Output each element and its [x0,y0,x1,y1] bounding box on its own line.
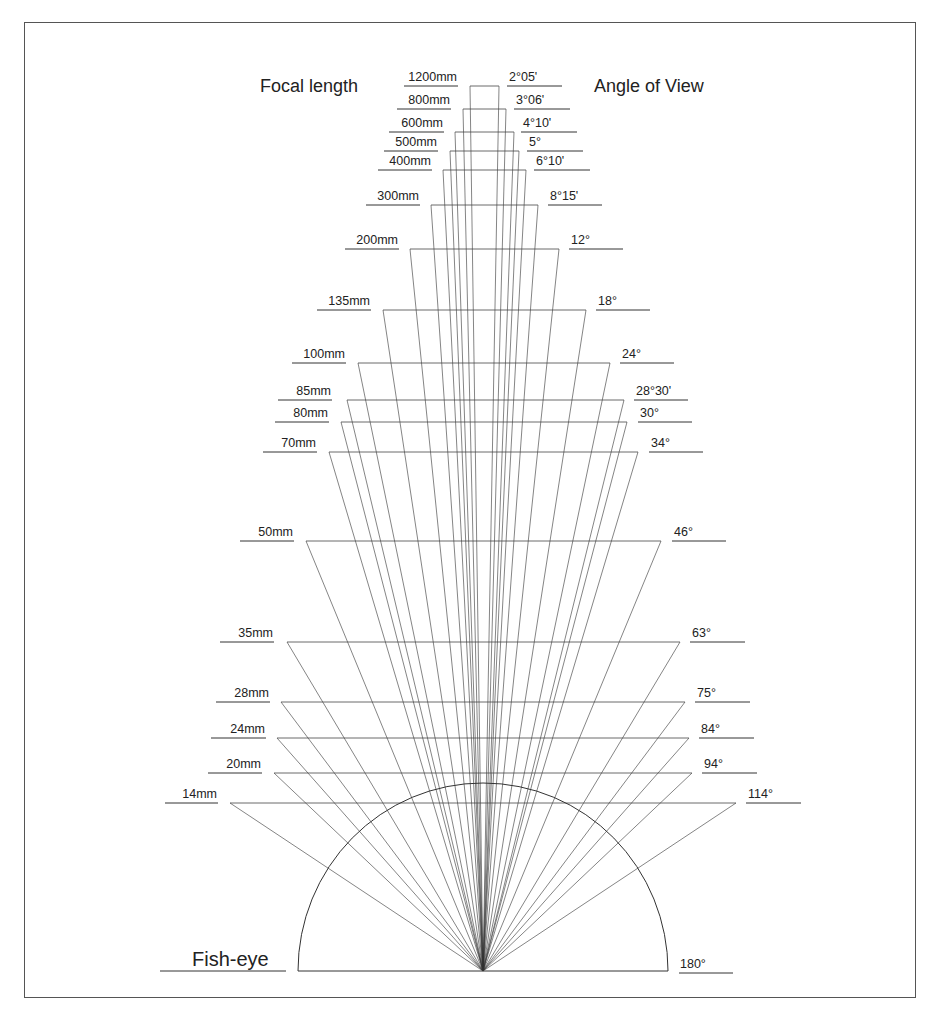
ray-right [483,541,661,971]
focal-length-label: 600mm [401,116,443,130]
focal-length-label: 50mm [258,525,293,539]
focal-length-label: 35mm [238,626,273,640]
ray-right [483,422,627,971]
focal-length-label: 85mm [296,384,331,398]
fisheye-label: Fish-eye [192,948,269,970]
ray-left [410,249,483,971]
focal-length-label: 800mm [408,93,450,107]
ray-right [483,109,506,971]
focal-length-label: 80mm [293,406,328,420]
ray-left [281,702,483,971]
angle-of-view-label: 18° [598,294,617,308]
focal-length-label: 70mm [281,436,316,450]
angle-of-view-label: 3°06' [516,93,544,107]
angle-of-view-label: 84° [701,722,720,736]
focal-length-title: Focal length [260,76,358,96]
focal-length-label: 100mm [303,347,345,361]
focal-length-label: 20mm [226,757,261,771]
focal-length-label: 28mm [234,686,269,700]
angle-of-view-label: 8°15' [550,189,578,203]
ray-left [306,541,483,971]
ray-right [483,205,538,971]
ray-left [358,363,483,971]
angle-of-view-label: 94° [704,757,723,771]
angle-of-view-label: 28°30' [636,384,671,398]
angle-of-view-label: 24° [622,347,641,361]
ray-left [455,132,483,971]
ray-left [463,109,483,971]
focal-length-label: 500mm [395,135,437,149]
ray-right [483,170,526,971]
focal-length-label: 24mm [230,722,265,736]
focal-length-label: 14mm [182,787,217,801]
angle-of-view-title: Angle of View [594,76,705,96]
ray-right [483,452,638,971]
fisheye-arc [298,783,668,971]
focal-length-diagram: 1200mm2°05'800mm3°06'600mm4°10'500mm5°40… [0,0,936,1010]
focal-length-label: 135mm [328,294,370,308]
angle-of-view-label: 75° [697,686,716,700]
view-angle-rays [230,86,736,971]
focal-length-label: 400mm [389,154,431,168]
ray-left [341,422,483,971]
angle-of-view-label: 4°10' [523,116,551,130]
angle-of-view-label: 30° [640,406,659,420]
focal-length-label: 1200mm [408,70,457,84]
ray-right [483,702,685,971]
lens-labels: 1200mm2°05'800mm3°06'600mm4°10'500mm5°40… [165,70,801,803]
angle-of-view-label: 2°05' [509,70,537,84]
ray-left [287,642,483,971]
angle-of-view-label: 12° [571,233,590,247]
angle-of-view-label: 63° [692,626,711,640]
fisheye-semicircle [298,783,668,971]
angle-of-view-label: 114° [748,787,773,801]
fisheye-angle-label: 180° [680,957,706,971]
angle-of-view-label: 5° [529,135,541,149]
ray-right [483,86,499,971]
focal-length-label: 200mm [356,233,398,247]
angle-of-view-label: 34° [651,436,670,450]
ray-left [383,310,483,971]
ray-left [329,452,483,971]
angle-of-view-label: 6°10' [536,154,564,168]
ray-left [347,400,483,971]
focal-length-label: 300mm [377,189,419,203]
angle-of-view-label: 46° [674,525,693,539]
